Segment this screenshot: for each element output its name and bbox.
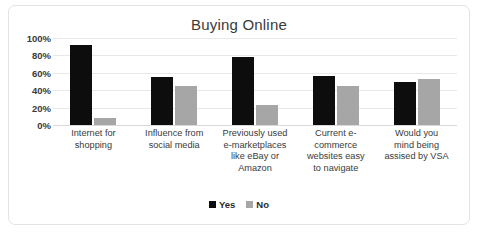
category-label: Current e-commercewebsites easyto naviga… xyxy=(295,128,376,174)
bar-no[interactable] xyxy=(94,118,116,125)
bar-group xyxy=(376,38,457,125)
bar-yes[interactable] xyxy=(70,45,92,125)
y-axis-tick-label: 40% xyxy=(32,85,51,96)
bar-yes[interactable] xyxy=(394,82,416,125)
bar-group xyxy=(295,38,376,125)
legend-item-yes[interactable]: Yes xyxy=(209,199,235,210)
category-label: Internet forshopping xyxy=(53,128,134,174)
bar-yes[interactable] xyxy=(151,77,173,125)
chart-container: Buying Online 100%80%60%40%20%0% Interne… xyxy=(8,5,470,225)
legend-item-no[interactable]: No xyxy=(246,199,269,210)
bar-no[interactable] xyxy=(175,86,197,125)
bar-no[interactable] xyxy=(337,86,359,125)
legend-swatch-icon xyxy=(209,201,216,208)
y-axis-tick-label: 100% xyxy=(27,33,51,44)
category-label: Would youmind beingassised by VSA xyxy=(376,128,457,174)
y-axis-tick-label: 20% xyxy=(32,102,51,113)
axis-baseline xyxy=(53,125,457,126)
category-label: Influence fromsocial media xyxy=(134,128,215,174)
x-axis-category-labels: Internet forshoppingInfluence fromsocial… xyxy=(53,128,457,174)
chart-legend: YesNo xyxy=(9,199,469,210)
y-axis-tick-label: 60% xyxy=(32,67,51,78)
category-label: Previously usede-marketplaceslike eBay o… xyxy=(215,128,296,174)
legend-swatch-icon xyxy=(246,201,253,208)
legend-label: Yes xyxy=(219,199,235,210)
bar-no[interactable] xyxy=(256,105,278,125)
legend-label: No xyxy=(256,199,269,210)
y-axis-tick-label: 80% xyxy=(32,50,51,61)
chart-title: Buying Online xyxy=(9,16,469,33)
y-axis: 100%80%60%40%20%0% xyxy=(17,38,51,125)
bar-group xyxy=(53,38,134,125)
bar-yes[interactable] xyxy=(313,76,335,125)
bar-group xyxy=(134,38,215,125)
bar-group xyxy=(215,38,296,125)
y-axis-tick-label: 0% xyxy=(37,120,51,131)
bar-no[interactable] xyxy=(418,79,440,125)
bars-layer xyxy=(53,38,457,125)
bar-yes[interactable] xyxy=(232,57,254,125)
plot-area xyxy=(53,38,457,125)
